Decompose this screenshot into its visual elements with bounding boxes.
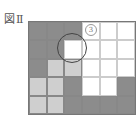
grid-cell-dark: [117, 77, 135, 95]
grid-cell-white: [117, 22, 135, 40]
figure-label: 図Ⅱ: [4, 10, 24, 26]
grid-cell-white: [82, 77, 100, 95]
grid-cell-light: [47, 59, 65, 77]
grid-cell-dark: [100, 96, 118, 114]
grid-cell-dark: [29, 22, 47, 40]
grid-cell-dark: [117, 96, 135, 114]
grid-cell-white: [82, 59, 100, 77]
grid-cell-dark: [64, 96, 82, 114]
grid-cell-white: [117, 40, 135, 58]
grid-cell-white: [100, 22, 118, 40]
shaded-grid: [28, 21, 136, 115]
grid-cell-white: [100, 40, 118, 58]
grid-cell-light: [47, 77, 65, 95]
grid-cell-white: [117, 59, 135, 77]
highlight-circle: [57, 33, 87, 63]
grid-cell-light: [29, 77, 47, 95]
grid-cell-white: [100, 77, 118, 95]
grid-cell-light: [47, 96, 65, 114]
grid-cell-dark: [64, 77, 82, 95]
grid-cell-dark: [82, 96, 100, 114]
grid-cell-dark: [29, 59, 47, 77]
grid-cell-dark: [29, 40, 47, 58]
grid-cell-light: [29, 96, 47, 114]
grid-cell-white: [100, 59, 118, 77]
